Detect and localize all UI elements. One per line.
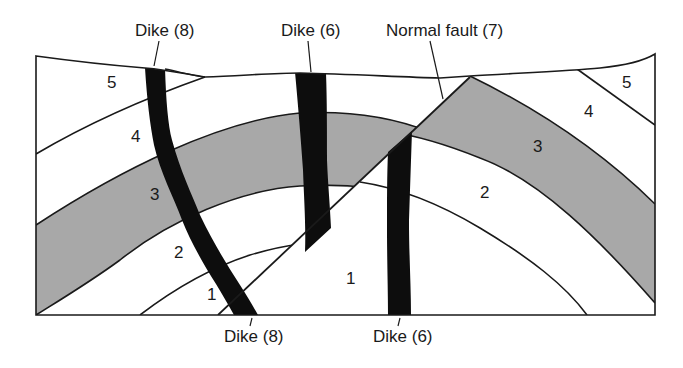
leader-fault-top xyxy=(430,41,443,99)
label-normal-fault-7: Normal fault (7) xyxy=(386,22,503,39)
cross-section-diagram xyxy=(0,0,683,368)
unit-label-center-1: 1 xyxy=(346,270,355,287)
unit-label-right-5: 5 xyxy=(622,74,631,91)
unit-label-left-5: 5 xyxy=(107,74,116,91)
unit-label-left-3: 3 xyxy=(150,186,159,203)
unit-label-left-4: 4 xyxy=(131,128,140,145)
unit-label-left-2: 2 xyxy=(174,244,183,261)
unit-label-right-3: 3 xyxy=(533,138,542,155)
label-dike-6-bottom: Dike (6) xyxy=(373,328,433,345)
dike-6-lower-segment xyxy=(387,131,412,315)
unit-label-left-1: 1 xyxy=(207,286,216,303)
leader-dike6-bottom xyxy=(398,318,400,326)
label-dike-6-top: Dike (6) xyxy=(281,22,341,39)
label-dike-8-top: Dike (8) xyxy=(135,22,195,39)
layer-3-right-shaded xyxy=(390,70,655,303)
contact-5-4-left xyxy=(36,77,205,154)
leader-dike8-top xyxy=(154,41,159,66)
leader-dike8-bottom xyxy=(250,318,252,326)
unit-label-right-4: 4 xyxy=(584,103,593,120)
surface-notch xyxy=(165,69,205,77)
unit-label-right-2: 2 xyxy=(480,184,489,201)
label-dike-8-bottom: Dike (8) xyxy=(224,328,284,345)
leader-dike6-top xyxy=(308,41,311,72)
